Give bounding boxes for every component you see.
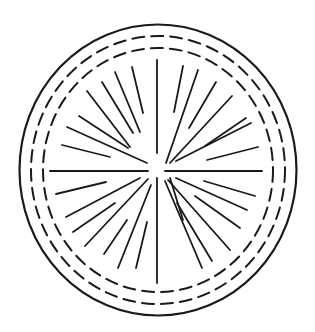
radial-line xyxy=(165,181,202,268)
radial-line xyxy=(56,182,106,194)
radial-line xyxy=(67,127,147,163)
rings xyxy=(20,25,297,316)
radial-line xyxy=(102,82,133,133)
radial-line xyxy=(136,222,147,268)
radial-line xyxy=(73,203,115,232)
radial-line xyxy=(207,147,258,160)
radial-line xyxy=(104,220,127,254)
outer-circle xyxy=(20,25,297,316)
radial-circle-drawing xyxy=(0,0,315,332)
radial-line xyxy=(174,66,183,112)
dashed-circle-outer xyxy=(31,36,285,304)
radial-line xyxy=(176,123,251,161)
radial-lines xyxy=(50,60,262,283)
radial-line xyxy=(205,118,246,146)
radial-line xyxy=(195,196,240,228)
radial-line xyxy=(132,67,143,113)
dashed-circle-inner xyxy=(43,48,273,292)
radial-line xyxy=(189,82,216,128)
radial-line xyxy=(62,145,110,157)
